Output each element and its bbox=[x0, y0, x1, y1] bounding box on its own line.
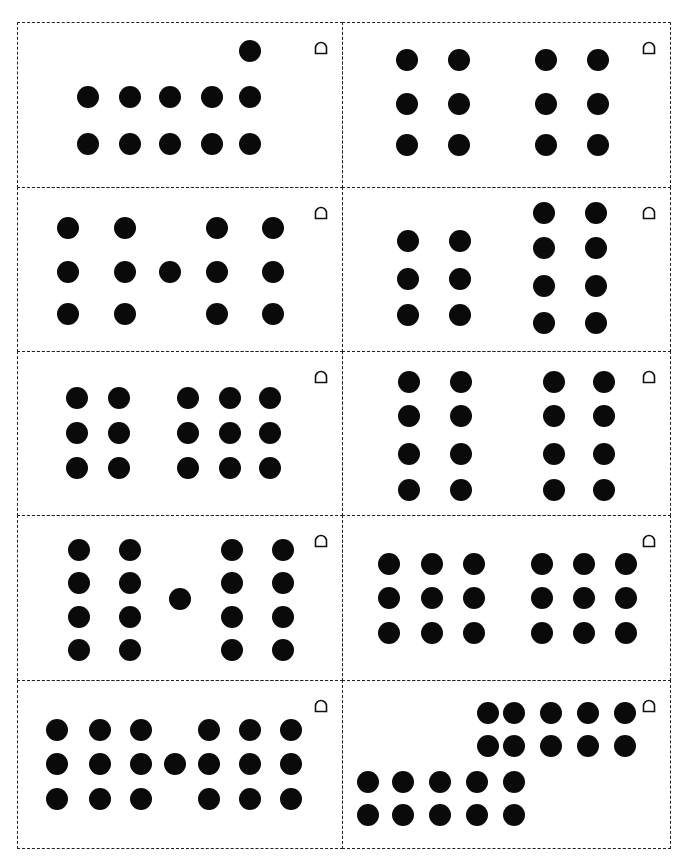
dot bbox=[239, 86, 261, 108]
rotated-d-letter-icon bbox=[314, 41, 328, 55]
dot bbox=[463, 587, 485, 609]
dot bbox=[587, 134, 609, 156]
dot bbox=[585, 237, 607, 259]
dot bbox=[68, 539, 90, 561]
dot bbox=[272, 606, 294, 628]
dot bbox=[280, 719, 302, 741]
dot bbox=[272, 572, 294, 594]
dot bbox=[421, 587, 443, 609]
dot bbox=[239, 788, 261, 810]
dot bbox=[46, 788, 68, 810]
dot bbox=[463, 553, 485, 575]
dot bbox=[477, 702, 499, 724]
dot bbox=[219, 387, 241, 409]
dot bbox=[531, 587, 553, 609]
dot bbox=[503, 735, 525, 757]
dot bbox=[89, 753, 111, 775]
dot bbox=[398, 371, 420, 393]
dot bbox=[159, 86, 181, 108]
dot bbox=[533, 275, 555, 297]
dot bbox=[239, 753, 261, 775]
dot bbox=[593, 443, 615, 465]
dot bbox=[119, 606, 141, 628]
dot-card-6 bbox=[342, 351, 671, 516]
dot bbox=[108, 387, 130, 409]
dot bbox=[378, 553, 400, 575]
dot bbox=[392, 804, 414, 826]
dot bbox=[130, 753, 152, 775]
dot bbox=[535, 134, 557, 156]
dot bbox=[577, 735, 599, 757]
dot bbox=[198, 788, 220, 810]
dot bbox=[585, 312, 607, 334]
dot bbox=[119, 539, 141, 561]
dot bbox=[259, 422, 281, 444]
dot bbox=[397, 268, 419, 290]
dot bbox=[262, 217, 284, 239]
dot bbox=[108, 457, 130, 479]
dot bbox=[259, 387, 281, 409]
dot bbox=[450, 371, 472, 393]
dot bbox=[198, 753, 220, 775]
dot bbox=[114, 217, 136, 239]
dot bbox=[280, 753, 302, 775]
dot bbox=[114, 303, 136, 325]
dot bbox=[448, 134, 470, 156]
dot bbox=[221, 539, 243, 561]
rotated-d-letter-icon bbox=[642, 370, 656, 384]
dot bbox=[535, 93, 557, 115]
dot bbox=[259, 457, 281, 479]
dot bbox=[177, 422, 199, 444]
dot bbox=[585, 202, 607, 224]
dot bbox=[221, 572, 243, 594]
dot bbox=[573, 553, 595, 575]
dot bbox=[615, 587, 637, 609]
dot bbox=[448, 93, 470, 115]
dot bbox=[466, 804, 488, 826]
dot bbox=[593, 479, 615, 501]
dot bbox=[159, 133, 181, 155]
dot bbox=[533, 312, 555, 334]
rotated-d-letter-icon bbox=[314, 370, 328, 384]
dot bbox=[206, 261, 228, 283]
dot bbox=[378, 622, 400, 644]
dot-card-4 bbox=[342, 187, 671, 352]
dot bbox=[573, 587, 595, 609]
dot bbox=[198, 719, 220, 741]
dot bbox=[114, 261, 136, 283]
dot bbox=[219, 422, 241, 444]
rotated-d-letter-icon bbox=[314, 534, 328, 548]
dot bbox=[543, 371, 565, 393]
dot bbox=[119, 133, 141, 155]
dot bbox=[533, 237, 555, 259]
dot bbox=[272, 639, 294, 661]
dot bbox=[119, 572, 141, 594]
dot bbox=[119, 86, 141, 108]
dot bbox=[421, 622, 443, 644]
dot bbox=[397, 230, 419, 252]
dot bbox=[543, 443, 565, 465]
dot bbox=[57, 217, 79, 239]
dot bbox=[398, 443, 420, 465]
dot bbox=[177, 457, 199, 479]
dot bbox=[573, 622, 595, 644]
dot bbox=[66, 422, 88, 444]
dot bbox=[614, 735, 636, 757]
dot bbox=[77, 133, 99, 155]
dot bbox=[201, 86, 223, 108]
dot bbox=[169, 588, 191, 610]
dot bbox=[219, 457, 241, 479]
dot-card-sheet bbox=[0, 0, 685, 863]
dot bbox=[466, 771, 488, 793]
dot bbox=[614, 702, 636, 724]
dot bbox=[585, 275, 607, 297]
dot bbox=[449, 268, 471, 290]
dot bbox=[262, 303, 284, 325]
dot bbox=[77, 86, 99, 108]
dot-card-1 bbox=[17, 22, 343, 188]
dot bbox=[615, 622, 637, 644]
dot bbox=[57, 303, 79, 325]
dot bbox=[66, 387, 88, 409]
dot bbox=[577, 702, 599, 724]
dot bbox=[221, 606, 243, 628]
